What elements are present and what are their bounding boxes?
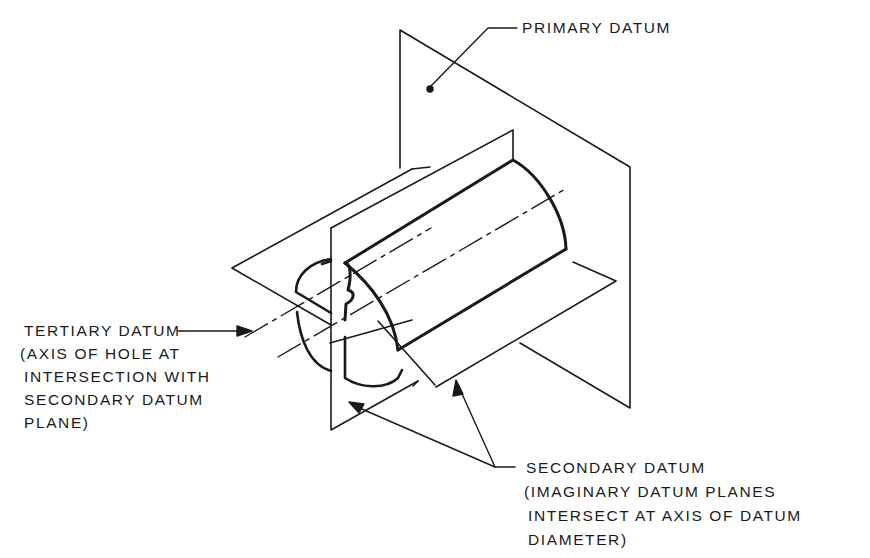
tertiary-line-2: (AXIS OF HOLE AT (20, 343, 181, 365)
cylinder-rear-upper (296, 259, 331, 313)
secondary-line-2: (IMAGINARY DATUM PLANES (524, 481, 776, 503)
tertiary-line-4: SECONDARY DATUM (24, 389, 204, 411)
tertiary-line-5: PLANE) (24, 412, 90, 434)
tertiary-line-1: TERTIARY DATUM (24, 320, 180, 342)
primary-datum-leader (427, 28, 517, 92)
cylinder-lower (297, 312, 402, 386)
tertiary-datum-leader (178, 326, 252, 336)
secondary-line-4: DIAMETER) (528, 529, 628, 551)
secondary-datum-leaders (349, 380, 515, 467)
secondary-line-3: INTERSECT AT AXIS OF DATUM (528, 505, 802, 527)
tertiary-line-3: INTERSECTION WITH (24, 366, 211, 388)
horizontal-datum-plane (232, 167, 616, 387)
secondary-line-1: SECONDARY DATUM (526, 457, 706, 479)
primary-datum-label: PRIMARY DATUM (522, 17, 671, 39)
center-lines (245, 188, 567, 357)
datum-diagram (0, 0, 870, 558)
